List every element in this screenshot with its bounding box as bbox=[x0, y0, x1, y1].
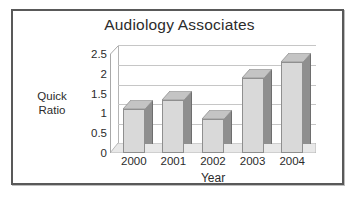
x-axis-tick-label: 2003 bbox=[236, 155, 270, 167]
bar-face bbox=[242, 78, 264, 153]
bar-side bbox=[264, 69, 272, 144]
x-axis-title: Year bbox=[110, 171, 316, 185]
chart-title: Audiology Associates bbox=[13, 16, 346, 34]
bar-top bbox=[123, 100, 153, 109]
bar-2000[interactable] bbox=[123, 100, 145, 153]
y-axis-tick-label: 1 bbox=[67, 107, 107, 119]
y-axis-tick-label: 2 bbox=[67, 68, 107, 80]
y-axis-tick-label: 1.5 bbox=[67, 88, 107, 100]
bar-2002[interactable] bbox=[202, 110, 224, 153]
x-axis-tick-label: 2004 bbox=[275, 155, 309, 167]
bar-face bbox=[162, 100, 184, 153]
x-axis-tick-label: 2002 bbox=[196, 155, 230, 167]
y-axis-line bbox=[110, 54, 111, 153]
bar-side bbox=[303, 53, 311, 144]
chart-frame: Audiology Associates Quick Ratio 00.511.… bbox=[11, 9, 344, 185]
bar-top bbox=[242, 69, 272, 78]
y-axis-tick-label: 0.5 bbox=[67, 127, 107, 139]
y-axis-tick-label: 2.5 bbox=[67, 48, 107, 60]
bar-face bbox=[202, 119, 224, 153]
y-axis-tick-labels: 00.511.522.5 bbox=[67, 45, 107, 155]
bar-2004[interactable] bbox=[281, 53, 303, 153]
y-axis-tick-label: 0 bbox=[67, 147, 107, 159]
x-axis-tick-label: 2000 bbox=[117, 155, 151, 167]
axis-depth-top bbox=[110, 45, 119, 55]
bar-face bbox=[123, 109, 145, 153]
bar-2003[interactable] bbox=[242, 69, 264, 153]
bar-top bbox=[162, 91, 192, 100]
bar-top bbox=[281, 53, 311, 62]
bar-2001[interactable] bbox=[162, 91, 184, 153]
plot-area bbox=[110, 45, 316, 153]
bar-top bbox=[202, 110, 232, 119]
x-axis-tick-label: 2001 bbox=[156, 155, 190, 167]
gridline bbox=[118, 45, 316, 46]
bar-face bbox=[281, 62, 303, 153]
